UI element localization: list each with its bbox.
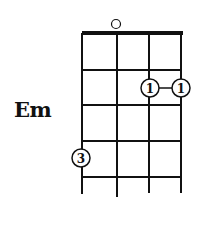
finger-dot: 3 <box>72 149 90 167</box>
finger-number: 1 <box>177 82 185 96</box>
frets <box>82 70 182 177</box>
chord-diagram: 1 1 3 <box>0 0 209 229</box>
finger-dot: 1 <box>141 79 159 97</box>
nut <box>82 31 183 35</box>
finger-dot: 1 <box>172 79 190 97</box>
open-string-icon <box>112 20 121 29</box>
strings <box>82 33 181 197</box>
finger-number: 3 <box>77 152 85 166</box>
finger-number: 1 <box>146 82 154 96</box>
